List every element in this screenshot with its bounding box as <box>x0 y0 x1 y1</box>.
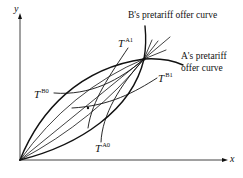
terms-of-trade-ray <box>20 59 144 160</box>
x-axis-label: x <box>230 154 234 164</box>
x-axis-arrow-icon <box>222 158 228 162</box>
y-axis-arrow-icon <box>18 13 22 19</box>
a-offer-curve-label-line1: A's pretariff <box>181 52 227 62</box>
tariff-point <box>87 107 89 109</box>
ta0-label: TA0 <box>95 142 110 154</box>
fan-line <box>144 37 170 59</box>
equilibrium-point <box>142 57 145 60</box>
tb0-curve <box>54 59 144 93</box>
ta1-label: TA1 <box>118 37 133 49</box>
tb1-label: TB1 <box>158 72 173 84</box>
a-offer-curve-label-line2: offer curve <box>181 64 223 74</box>
y-axis-label: y <box>14 4 18 14</box>
tb0-label: TB0 <box>34 88 49 100</box>
b-offer-curve-label: B's pretariff offer curve <box>128 11 217 21</box>
